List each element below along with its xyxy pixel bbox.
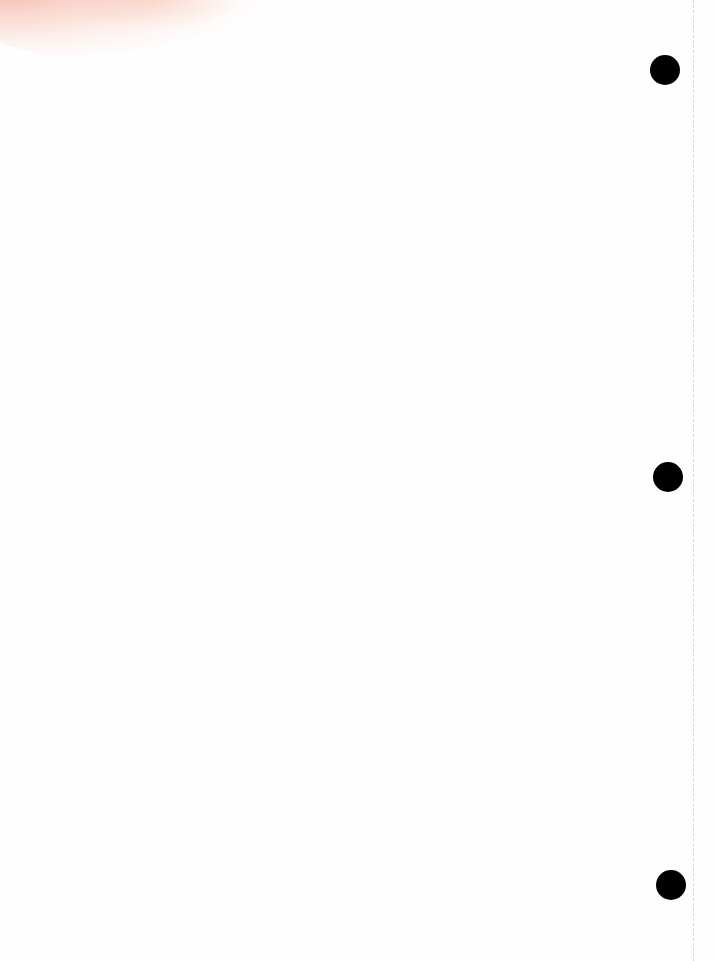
punch-hole-middle: [653, 462, 683, 492]
punch-hole-top: [650, 55, 680, 85]
perforation-line: [693, 0, 694, 961]
punch-hole-bottom: [656, 870, 686, 900]
blank-paper-page: [0, 0, 716, 961]
